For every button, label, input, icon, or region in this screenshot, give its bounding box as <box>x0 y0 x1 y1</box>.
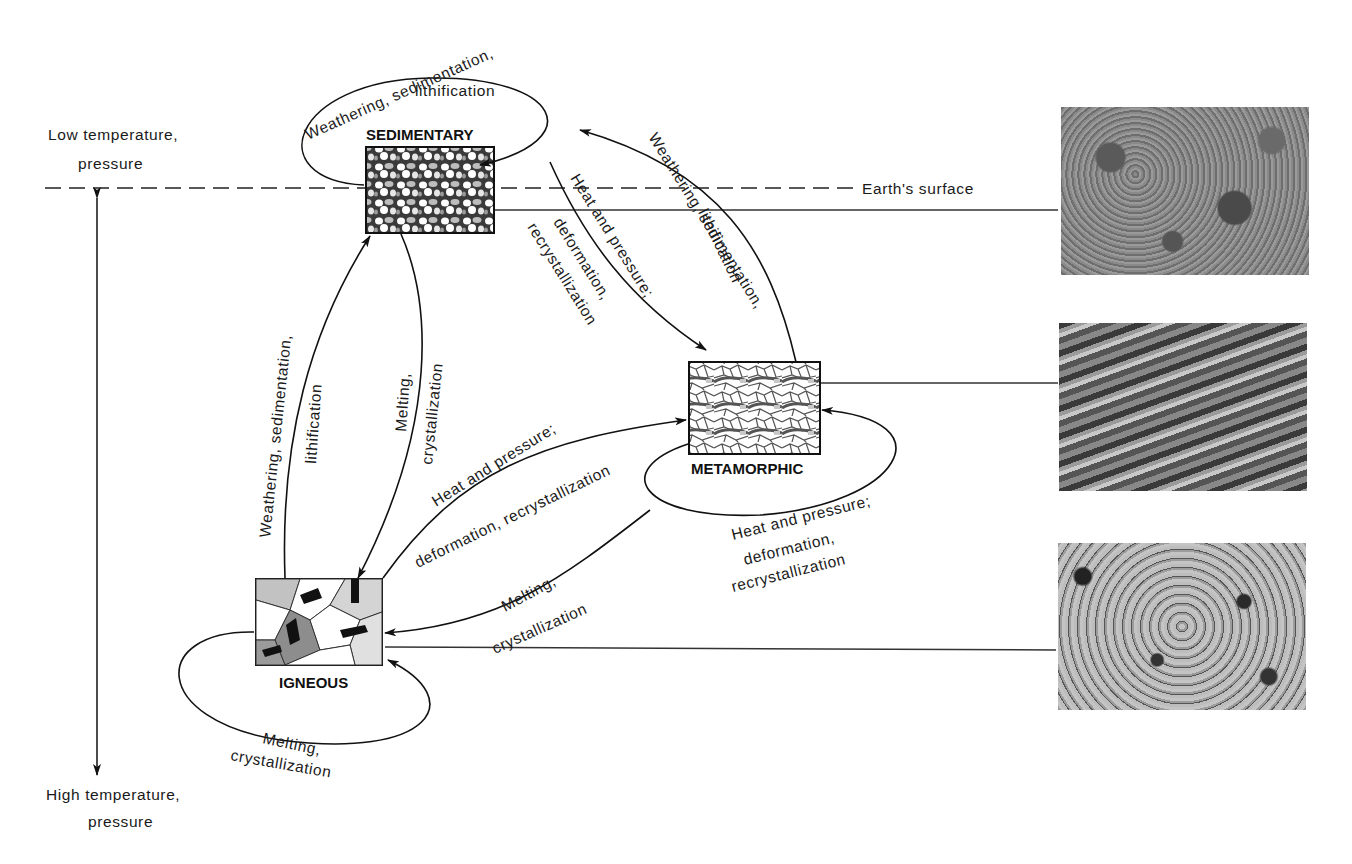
igneous-photo-connector <box>385 647 1056 650</box>
sed-to-ign-arrow <box>358 234 422 578</box>
ign-to-met-label-2: deformation, recrystallization <box>412 461 613 571</box>
ign-to-sed-label-2: lithification <box>302 383 325 464</box>
igneous-rock-box: IGNEOUS <box>256 579 382 691</box>
high-pressure-label: pressure <box>88 813 153 830</box>
sed-to-ign-label-1: Melting, <box>392 372 413 432</box>
met-to-sed-label-2: lithification <box>695 206 745 286</box>
low-temp-label: Low temperature, <box>48 126 178 143</box>
met-self-label-1: Heat and pressure; <box>730 492 873 543</box>
met-to-ign-label-1: Melting, <box>498 572 558 615</box>
ign-to-sed-arrow <box>284 236 370 578</box>
sedimentary-rock-box: SEDIMENTARY <box>366 126 494 233</box>
granite-photo <box>1058 543 1306 710</box>
sed-to-met-label-1: Heat and pressure; <box>567 171 657 301</box>
metamorphic-label: METAMORPHIC <box>691 460 803 477</box>
high-temp-label: High temperature, <box>46 786 180 803</box>
earth-surface-label: Earth's surface <box>862 180 974 197</box>
sandstone-photo <box>1061 107 1309 275</box>
ign-to-sed-label-1: Weathering, sedimentation, <box>256 334 294 539</box>
sed-to-ign-label-2: crystallization <box>418 362 446 465</box>
gneiss-photo <box>1059 323 1307 491</box>
sedimentary-label: SEDIMENTARY <box>366 126 474 143</box>
sed-self-label-2: lithification <box>415 82 495 99</box>
metamorphic-rock-box: METAMORPHIC <box>689 362 820 477</box>
igneous-label: IGNEOUS <box>279 674 348 691</box>
low-pressure-label: pressure <box>78 155 143 172</box>
